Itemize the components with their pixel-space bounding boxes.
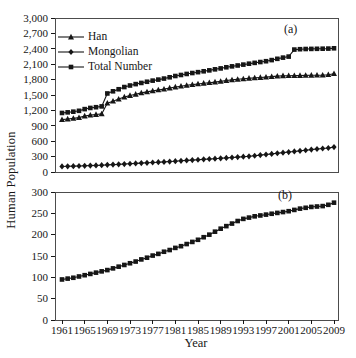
data-point <box>71 109 76 114</box>
data-point <box>252 153 257 159</box>
data-point <box>133 82 138 87</box>
data-point <box>111 266 116 271</box>
data-point <box>298 47 303 52</box>
data-point <box>133 259 138 264</box>
data-point <box>332 200 337 205</box>
data-point <box>275 57 280 62</box>
data-point <box>218 226 223 231</box>
data-point <box>116 87 121 92</box>
x-tick-label: 1969 <box>96 324 119 336</box>
data-point <box>65 163 70 169</box>
data-point <box>207 68 212 73</box>
data-point <box>93 162 98 168</box>
y-tick-label: 3,000 <box>23 12 48 24</box>
data-point <box>292 208 297 213</box>
x-tick-label: 2005 <box>300 324 323 336</box>
y-tick-label: 300 <box>32 186 49 198</box>
data-point <box>110 162 115 168</box>
y-tick-label: 0 <box>43 314 49 326</box>
y-tick-label: 300 <box>32 150 49 162</box>
data-point <box>116 264 121 269</box>
data-point <box>88 162 93 168</box>
data-point <box>173 246 178 251</box>
y-tick-label: 2,400 <box>23 43 48 55</box>
data-point <box>235 154 240 160</box>
data-point <box>71 275 76 280</box>
y-tick-label: 1,500 <box>23 89 48 101</box>
legend-item-total-number: Total Number <box>88 61 152 73</box>
data-point <box>309 47 314 52</box>
data-point <box>105 268 110 273</box>
y-tick-label: 0 <box>43 166 49 178</box>
data-point <box>71 163 76 169</box>
data-point <box>184 72 189 77</box>
data-point <box>173 158 178 164</box>
data-point <box>162 249 167 254</box>
data-point <box>88 272 93 277</box>
data-point <box>229 154 234 160</box>
data-point <box>82 163 87 169</box>
data-point <box>320 46 325 51</box>
data-point <box>139 81 144 86</box>
x-axis-label: Year <box>146 337 246 350</box>
data-point <box>309 205 314 210</box>
panel-a-label: (a) <box>284 23 297 35</box>
series-han-line <box>62 74 334 120</box>
data-point <box>258 152 263 158</box>
data-point <box>122 161 127 167</box>
y-tick-label: 100 <box>32 271 49 283</box>
x-tick-label: 1989 <box>210 324 233 336</box>
legend-marker <box>69 65 74 70</box>
data-point <box>150 78 155 83</box>
data-point <box>315 204 320 209</box>
data-point <box>269 151 274 157</box>
data-point <box>218 66 223 71</box>
data-point <box>60 277 65 282</box>
data-point <box>122 263 127 268</box>
data-point <box>281 210 286 215</box>
x-tick-label: 1961 <box>51 324 73 336</box>
data-point <box>156 252 161 257</box>
data-point <box>230 64 235 69</box>
series-total-number-line <box>62 48 334 113</box>
data-point <box>326 46 331 51</box>
data-point <box>235 219 240 224</box>
data-point <box>59 163 64 169</box>
panel-b-label: (b) <box>278 189 292 201</box>
y-axis-label: Human Population <box>5 131 18 228</box>
data-point <box>167 248 172 253</box>
data-point <box>150 253 155 258</box>
data-point <box>162 76 167 81</box>
x-tick-label: 1985 <box>187 324 210 336</box>
data-point <box>331 144 336 150</box>
y-tick-label: 900 <box>32 120 49 132</box>
x-tick-label: 1973 <box>119 324 142 336</box>
data-point <box>280 150 285 156</box>
data-point <box>235 63 240 68</box>
data-point <box>173 74 178 79</box>
data-point <box>212 156 217 162</box>
y-tick-label: 200 <box>32 228 49 240</box>
y-tick-label: 50 <box>37 292 49 304</box>
population-figure: 03006009001,2001,5001,8002,1002,4002,700… <box>0 0 356 358</box>
data-point <box>264 59 269 64</box>
data-point <box>60 111 65 116</box>
x-tick-label: 2009 <box>323 324 346 336</box>
data-point <box>213 229 218 234</box>
data-point <box>99 104 104 109</box>
data-point <box>190 71 195 76</box>
data-point <box>167 158 172 164</box>
data-point <box>144 160 149 166</box>
data-point <box>331 70 337 76</box>
data-point <box>224 224 229 229</box>
data-point <box>127 161 132 167</box>
y-tick-label: 150 <box>32 250 49 262</box>
y-tick-label: 250 <box>32 207 49 219</box>
data-point <box>145 255 150 260</box>
data-point <box>264 212 269 217</box>
data-point <box>297 148 302 154</box>
data-point <box>94 270 99 275</box>
data-point <box>99 269 104 274</box>
x-tick-label: 1965 <box>74 324 97 336</box>
data-point <box>94 105 99 110</box>
